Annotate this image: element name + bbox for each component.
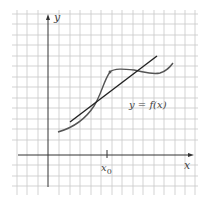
y-axis-arrow-icon — [46, 14, 50, 20]
curve-f — [58, 63, 173, 132]
x0-label: x0 — [101, 162, 112, 176]
x-axis-label: x — [184, 159, 191, 172]
point-on-curve — [109, 71, 112, 74]
graph: y x x0 y = f(x) — [0, 0, 204, 203]
y-axis-label: y — [53, 11, 61, 24]
curve-label: y = f(x) — [128, 99, 167, 110]
x-axis-arrow-icon — [188, 153, 194, 157]
